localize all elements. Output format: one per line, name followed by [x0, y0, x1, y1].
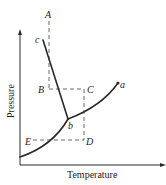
label-b: b: [68, 120, 73, 131]
label-A: A: [44, 9, 52, 20]
phase-curves: [20, 40, 118, 157]
x-axis-arrow-icon: [160, 163, 166, 167]
label-a: a: [120, 79, 125, 90]
y-axis-label: Pressure: [5, 84, 16, 118]
label-E: E: [24, 136, 31, 147]
label-B: B: [38, 84, 44, 95]
x-axis-label: Temperature: [67, 169, 118, 180]
dashed-paths: [33, 21, 84, 140]
label-c: c: [35, 34, 40, 45]
fusion-curve-b-c: [43, 40, 68, 119]
label-C: C: [87, 84, 94, 95]
phase-diagram: A c B C a b E D Temperature Pressure: [0, 0, 166, 185]
label-D: D: [85, 136, 94, 147]
y-axis-arrow-icon: [18, 29, 22, 35]
